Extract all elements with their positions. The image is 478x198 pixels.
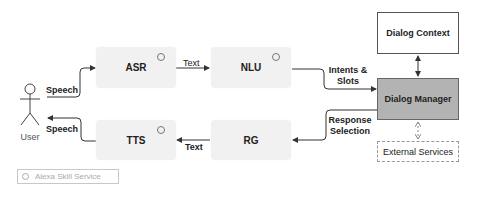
external-services-node[interactable]: External Services <box>377 141 459 162</box>
service-marker-icon <box>157 53 165 61</box>
tts-label: TTS <box>127 135 146 146</box>
rg-label: RG <box>244 135 259 146</box>
edge-label-rg-to-tts: Text <box>185 141 203 153</box>
asr-label: ASR <box>125 62 146 73</box>
nlu-label: NLU <box>241 62 262 73</box>
service-marker-icon <box>157 126 165 134</box>
legend-label: Alexa Skill Service <box>35 172 101 181</box>
dialog-manager-node[interactable]: Dialog Manager <box>377 78 459 120</box>
edge-label-dm-to-rg-2: Selection <box>328 125 372 137</box>
legend: Alexa Skill Service <box>17 169 119 184</box>
user-actor-icon <box>20 84 40 125</box>
edge-label-asr-to-nlu: Text <box>183 57 200 69</box>
edge-label-user-to-asr: Speech <box>46 84 78 96</box>
edge-label-nlu-to-dm-2: Slots <box>328 75 368 87</box>
edge-label-tts-to-user: Speech <box>46 123 78 135</box>
tts-node[interactable]: TTS <box>96 120 176 160</box>
service-marker-icon <box>272 53 280 61</box>
user-label: User <box>16 131 44 143</box>
asr-node[interactable]: ASR <box>96 47 176 88</box>
external-services-label: External Services <box>383 147 453 157</box>
dialog-manager-label: Dialog Manager <box>384 94 451 104</box>
service-marker-icon <box>22 173 29 180</box>
nlu-node[interactable]: NLU <box>211 47 291 88</box>
dialog-context-label: Dialog Context <box>386 28 450 38</box>
rg-node[interactable]: RG <box>211 120 291 160</box>
dialog-context-node[interactable]: Dialog Context <box>377 12 459 54</box>
